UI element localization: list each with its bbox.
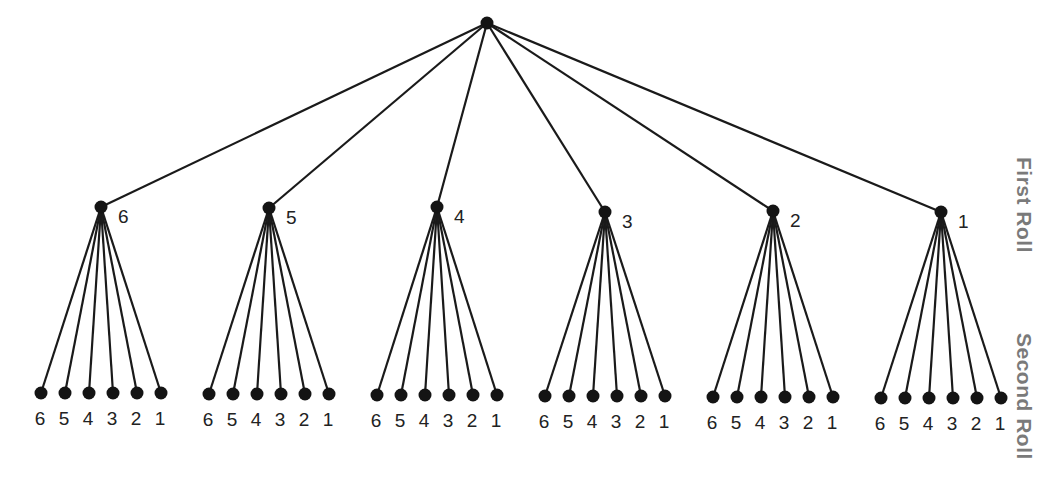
second-roll-node-5-6	[203, 388, 216, 401]
second-roll-node-1-2	[971, 392, 984, 405]
second-roll-label-3-1: 1	[659, 411, 670, 432]
edge-root-to-first-roll-1	[487, 23, 941, 212]
second-roll-label-4-2: 2	[467, 410, 478, 431]
first-roll-label-2: 2	[790, 210, 801, 231]
second-roll-label-1-6: 6	[875, 413, 886, 434]
second-roll-label-3-3: 3	[611, 411, 622, 432]
second-roll-label-3-2: 2	[635, 411, 646, 432]
first-roll-label-5: 5	[286, 207, 297, 228]
second-roll-label-5-1: 1	[323, 409, 334, 430]
second-roll-label-2-3: 3	[779, 412, 790, 433]
second-roll-node-5-5	[227, 388, 240, 401]
second-roll-node-3-3	[611, 390, 624, 403]
second-roll-node-3-6	[539, 390, 552, 403]
second-roll-label-1-1: 1	[995, 413, 1006, 434]
second-roll-label-5-6: 6	[203, 409, 214, 430]
second-roll-label-6-5: 5	[59, 408, 70, 429]
second-roll-node-2-5	[731, 391, 744, 404]
edge-root-to-first-roll-2	[487, 23, 773, 211]
second-roll-label-5-3: 3	[275, 409, 286, 430]
second-roll-label-2-1: 1	[827, 412, 838, 433]
second-roll-label-2-4: 4	[755, 412, 766, 433]
second-roll-label-4-3: 3	[443, 410, 454, 431]
second-roll-node-1-5	[899, 392, 912, 405]
second-roll-label-1-5: 5	[899, 413, 910, 434]
second-roll-label-6-6: 6	[35, 408, 46, 429]
second-roll-node-3-5	[563, 390, 576, 403]
first-roll-node-4	[431, 201, 444, 214]
second-roll-node-6-2	[131, 387, 144, 400]
second-roll-node-6-1	[155, 387, 168, 400]
second-roll-node-4-2	[467, 389, 480, 402]
second-roll-node-5-2	[299, 388, 312, 401]
second-roll-node-3-1	[659, 390, 672, 403]
first-roll-node-1	[935, 206, 948, 219]
second-roll-node-2-4	[755, 391, 768, 404]
second-roll-node-2-6	[707, 391, 720, 404]
second-roll-node-2-3	[779, 391, 792, 404]
second-roll-node-4-3	[443, 389, 456, 402]
second-roll-label-6-1: 1	[155, 408, 166, 429]
second-roll-node-6-5	[59, 387, 72, 400]
second-roll-level-label: Second Roll	[1012, 333, 1036, 460]
second-roll-node-2-2	[803, 391, 816, 404]
second-roll-label-6-2: 2	[131, 408, 142, 429]
second-roll-node-4-1	[491, 389, 504, 402]
first-roll-label-1: 1	[958, 211, 969, 232]
second-roll-node-4-5	[395, 389, 408, 402]
edge-root-to-first-roll-3	[487, 23, 605, 212]
second-roll-node-6-3	[107, 387, 120, 400]
second-roll-node-5-1	[323, 388, 336, 401]
first-roll-label-4: 4	[454, 206, 465, 227]
second-roll-label-1-4: 4	[923, 413, 934, 434]
first-roll-label-3: 3	[622, 211, 633, 232]
second-roll-node-4-4	[419, 389, 432, 402]
second-roll-node-1-6	[875, 392, 888, 405]
probability-tree-diagram: 6543216654321565432146543213654321265432…	[0, 0, 1042, 490]
second-roll-label-4-6: 6	[371, 410, 382, 431]
second-roll-node-1-1	[995, 392, 1008, 405]
second-roll-node-4-6	[371, 389, 384, 402]
edge-root-to-first-roll-6	[101, 23, 487, 207]
second-roll-node-3-2	[635, 390, 648, 403]
first-roll-label-6: 6	[118, 206, 129, 227]
second-roll-label-6-3: 3	[107, 408, 118, 429]
second-roll-label-2-5: 5	[731, 412, 742, 433]
second-roll-node-5-4	[251, 388, 264, 401]
root-node	[481, 17, 494, 30]
second-roll-node-1-3	[947, 392, 960, 405]
second-roll-label-5-4: 4	[251, 409, 262, 430]
second-roll-label-1-2: 2	[971, 413, 982, 434]
second-roll-label-2-6: 6	[707, 412, 718, 433]
second-roll-node-2-1	[827, 391, 840, 404]
second-roll-label-1-3: 3	[947, 413, 958, 434]
first-roll-level-label: First Roll	[1012, 157, 1036, 253]
second-roll-label-6-4: 4	[83, 408, 94, 429]
second-roll-node-6-6	[35, 387, 48, 400]
first-roll-node-2	[767, 205, 780, 218]
second-roll-label-2-2: 2	[803, 412, 814, 433]
second-roll-label-4-4: 4	[419, 410, 430, 431]
edge-root-to-first-roll-4	[437, 23, 487, 207]
tree-edges	[41, 23, 1001, 398]
second-roll-label-5-5: 5	[227, 409, 238, 430]
first-roll-node-3	[599, 206, 612, 219]
second-roll-label-4-1: 1	[491, 410, 502, 431]
second-roll-node-3-4	[587, 390, 600, 403]
second-roll-label-4-5: 5	[395, 410, 406, 431]
first-roll-node-6	[95, 201, 108, 214]
second-roll-label-3-4: 4	[587, 411, 598, 432]
second-roll-node-1-4	[923, 392, 936, 405]
second-roll-node-6-4	[83, 387, 96, 400]
second-roll-node-5-3	[275, 388, 288, 401]
second-roll-label-3-5: 5	[563, 411, 574, 432]
first-roll-node-5	[263, 202, 276, 215]
second-roll-label-5-2: 2	[299, 409, 310, 430]
second-roll-label-3-6: 6	[539, 411, 550, 432]
edge-root-to-first-roll-5	[269, 23, 487, 208]
